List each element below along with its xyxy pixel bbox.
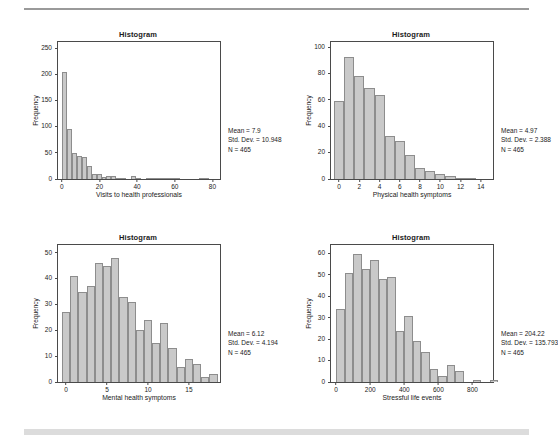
histogram-bar [413, 341, 422, 382]
histogram-bar [379, 279, 388, 382]
x-axis-tick: 8 [418, 179, 422, 190]
x-tick-label: 0 [64, 387, 68, 394]
plot-area: 01020304050 051015 [57, 244, 221, 383]
y-tick-label: 20 [318, 149, 328, 156]
x-tick-mark [137, 179, 138, 182]
y-tick-label: 10 [318, 357, 328, 364]
y-axis-label: Frequency [30, 41, 40, 180]
histogram-bar [447, 365, 456, 382]
y-tick-label: 40 [45, 275, 55, 282]
y-tick-label: 40 [318, 123, 328, 130]
stat-std-dev: Std. Dev. = 4.194 [228, 338, 278, 347]
histogram-bar [62, 312, 70, 382]
y-tick-mark [328, 47, 331, 48]
chart-title: Histogram [0, 30, 276, 39]
x-tick-mark [404, 382, 405, 385]
histogram-bar [209, 374, 217, 382]
chart-title: Histogram [273, 30, 549, 39]
x-tick-label: 20 [96, 184, 103, 191]
x-axis-tick: 0 [64, 382, 68, 393]
y-tick-mark [328, 152, 331, 153]
histogram-bar [421, 352, 430, 382]
histogram-bar [160, 323, 168, 382]
histogram-bar [404, 316, 413, 382]
x-axis-label: Physical health symptoms [330, 191, 494, 198]
x-axis-label: Mental health symptoms [57, 394, 221, 401]
x-tick-mark [174, 179, 175, 182]
y-tick-mark [55, 179, 58, 180]
stats-annotation: Mean = 6.12 Std. Dev. = 4.194 N = 465 [228, 329, 278, 357]
histogram-bar [336, 309, 345, 382]
histogram-bar [455, 371, 464, 382]
x-tick-label: 400 [399, 387, 410, 394]
y-tick-mark [55, 100, 58, 101]
x-axis-tick: 4 [378, 179, 382, 190]
x-tick-mark [212, 179, 213, 182]
x-axis-tick: 60 [171, 179, 178, 190]
x-axis-tick: 0 [334, 382, 338, 393]
y-tick-mark [55, 48, 58, 49]
y-axis-label: Frequency [303, 41, 313, 180]
x-tick-label: 2 [358, 184, 362, 191]
histogram-bar [395, 141, 405, 179]
x-axis-label: Stressful life events [330, 394, 494, 401]
x-axis-label: Visits to health professionals [57, 191, 221, 198]
x-tick-label: 12 [457, 184, 464, 191]
y-tick-label: 80 [318, 70, 328, 77]
y-tick-mark [55, 152, 58, 153]
y-tick-label: 250 [41, 45, 55, 52]
bars-container [331, 245, 493, 382]
x-axis-tick: 10 [144, 382, 151, 393]
x-tick-label: 0 [337, 184, 341, 191]
x-tick-mark [107, 382, 108, 385]
x-axis-tick: 80 [209, 179, 216, 190]
x-tick-label: 200 [365, 387, 376, 394]
x-tick-mark [460, 179, 461, 182]
plot-area: 0102030405060 0200400600800 [330, 244, 494, 383]
x-axis-tick: 200 [365, 382, 376, 393]
histogram-bar [168, 348, 176, 382]
y-tick-label: 0 [48, 379, 55, 386]
y-tick-label: 50 [45, 150, 55, 157]
x-tick-mark [370, 382, 371, 385]
x-axis-tick: 20 [96, 179, 103, 190]
histogram-bar [425, 171, 435, 179]
histogram-bar [87, 286, 95, 382]
y-tick-label: 30 [318, 315, 328, 322]
stat-mean: Mean = 4.97 [501, 126, 551, 135]
y-tick-mark [55, 74, 58, 75]
x-tick-mark [359, 179, 360, 182]
y-tick-label: 20 [45, 327, 55, 334]
bottom-divider-band [24, 429, 529, 435]
histogram-bar [144, 320, 152, 382]
x-tick-label: 8 [418, 184, 422, 191]
y-tick-label: 150 [41, 97, 55, 104]
x-axis-tick: 0 [60, 179, 64, 190]
y-tick-mark [328, 73, 331, 74]
y-tick-mark [328, 99, 331, 100]
x-tick-mark [339, 179, 340, 182]
histogram-panel-mental: Histogram Frequency 01020304050 051015 M… [0, 219, 276, 424]
chart-title: Histogram [0, 233, 276, 242]
x-axis-tick: 0 [337, 179, 341, 190]
x-axis-tick: 40 [133, 179, 140, 190]
histogram-panel-stress: Histogram Frequency 0102030405060 020040… [273, 219, 549, 424]
x-tick-mark [480, 179, 481, 182]
x-axis-tick: 5 [105, 382, 109, 393]
histogram-bar [103, 266, 111, 382]
histogram-bar [136, 330, 144, 382]
histogram-bar [152, 343, 160, 382]
histogram-bar [185, 359, 193, 382]
histogram-panel-visits: Histogram Frequency 050100150200250 0204… [0, 16, 276, 221]
x-tick-mark [438, 382, 439, 385]
y-tick-label: 0 [321, 379, 328, 386]
x-tick-mark [399, 179, 400, 182]
stat-n: N = 465 [501, 348, 558, 357]
histogram-panel-physical: Histogram Frequency 020406080100 0246810… [273, 16, 549, 221]
y-tick-mark [328, 126, 331, 127]
stat-std-dev: Std. Dev. = 2.388 [501, 135, 551, 144]
bars-container [58, 245, 220, 382]
x-axis-tick: 6 [398, 179, 402, 190]
y-tick-label: 10 [45, 353, 55, 360]
y-tick-label: 60 [318, 97, 328, 104]
